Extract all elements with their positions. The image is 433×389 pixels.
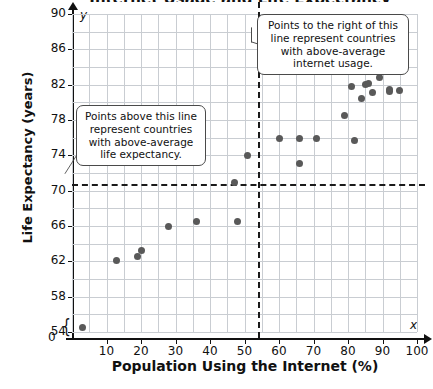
data-point bbox=[276, 135, 283, 142]
data-point bbox=[138, 247, 145, 254]
x-tick-mark bbox=[348, 338, 349, 344]
gridline-horizontal bbox=[72, 297, 417, 298]
gridline-horizontal bbox=[72, 244, 417, 245]
data-point bbox=[79, 324, 86, 331]
x-tick-label: 100 bbox=[397, 344, 433, 358]
data-point bbox=[193, 218, 200, 225]
y-tick-label: 78 bbox=[38, 112, 66, 126]
x-tick-mark bbox=[383, 338, 384, 344]
x-tick-mark bbox=[107, 338, 108, 344]
data-point bbox=[351, 137, 358, 144]
gridline-horizontal bbox=[72, 226, 417, 227]
callout-internet-usage: Points to the right of this line represe… bbox=[257, 14, 409, 75]
chart-title: Internet Usage and Life Expectancy bbox=[70, 0, 410, 2]
callout-life-expectancy: Points above this line represent countri… bbox=[76, 105, 206, 166]
gridline-horizontal bbox=[72, 332, 417, 333]
data-point bbox=[234, 218, 241, 225]
data-point bbox=[365, 80, 372, 87]
x-axis-label: Population Using the Internet (%) bbox=[60, 358, 430, 374]
x-tick-mark bbox=[210, 338, 211, 344]
data-point bbox=[113, 257, 120, 264]
x-tick-mark bbox=[279, 338, 280, 344]
data-point bbox=[341, 112, 348, 119]
x-tick-mark bbox=[245, 338, 246, 344]
data-point bbox=[358, 95, 365, 102]
x-tick-mark bbox=[141, 338, 142, 344]
chart-canvas: Internet Usage and Life Expectancy y x 0… bbox=[0, 0, 433, 389]
mean-life-expectancy-line bbox=[72, 184, 425, 186]
gridline-horizontal bbox=[72, 102, 417, 103]
y-tick-label: 86 bbox=[38, 41, 66, 55]
y-tick-label: 58 bbox=[38, 289, 66, 303]
x-axis-line bbox=[66, 338, 426, 340]
data-point bbox=[348, 83, 355, 90]
gridline-horizontal bbox=[72, 208, 417, 209]
y-tick-label: 62 bbox=[38, 253, 66, 267]
y-tick-label: 74 bbox=[38, 147, 66, 161]
gridline-horizontal bbox=[72, 314, 417, 315]
data-point bbox=[244, 152, 251, 159]
gridline-horizontal bbox=[72, 279, 417, 280]
y-tick-label: 82 bbox=[38, 77, 66, 91]
data-point bbox=[231, 179, 238, 186]
data-point bbox=[369, 89, 376, 96]
gridline-vertical bbox=[417, 14, 418, 332]
x-axis-arrow bbox=[424, 334, 432, 344]
gridline-horizontal bbox=[72, 261, 417, 262]
y-tick-label: 90 bbox=[38, 6, 66, 20]
x-tick-mark bbox=[417, 338, 418, 344]
data-point bbox=[386, 88, 393, 95]
x-tick-mark bbox=[314, 338, 315, 344]
y-axis-label: Life Expectancy (years) bbox=[20, 43, 35, 273]
gridline-horizontal bbox=[72, 173, 417, 174]
y-tick-label: 70 bbox=[38, 183, 66, 197]
data-point bbox=[396, 87, 403, 94]
x-tick-mark bbox=[176, 338, 177, 344]
gridline-horizontal bbox=[72, 191, 417, 192]
data-point bbox=[296, 135, 303, 142]
y-axis-arrow bbox=[68, 2, 78, 10]
data-point bbox=[313, 135, 320, 142]
data-point bbox=[296, 160, 303, 167]
data-point bbox=[376, 74, 383, 81]
y-tick-label: 66 bbox=[38, 218, 66, 232]
y-tick-label: 54 bbox=[38, 324, 66, 338]
data-point bbox=[165, 223, 172, 230]
